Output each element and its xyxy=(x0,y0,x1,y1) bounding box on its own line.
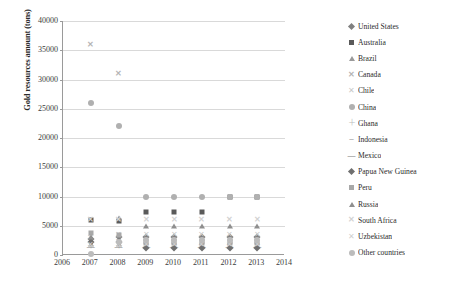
legend-marker-icon xyxy=(346,21,357,32)
plot-area: ✕✕✕✕✕✕✕✕✕✕✕✕✕✕＋＋＋＋＋＋＋–––––––———————✕✕✕✕✕… xyxy=(62,21,284,255)
legend-item[interactable]: ✕Uzbekistan xyxy=(346,228,452,244)
data-point xyxy=(88,251,94,257)
gridline xyxy=(63,167,285,168)
y-tick-label: 40000 xyxy=(0,17,58,25)
legend-marker-icon xyxy=(346,166,357,177)
y-tick-mark xyxy=(60,197,63,198)
legend-item-label: Other countries xyxy=(358,248,405,257)
y-tick-mark xyxy=(60,138,63,139)
data-point xyxy=(143,194,149,200)
data-point xyxy=(171,223,177,228)
legend-item[interactable]: –Indonesia xyxy=(346,131,452,147)
gridline xyxy=(63,138,285,139)
legend-item[interactable]: —Mexico xyxy=(346,148,452,164)
chart-legend: United StatesAustraliaBrazil✕Canada✕Chil… xyxy=(346,18,452,261)
data-point xyxy=(171,194,177,200)
legend-item[interactable]: ✕Canada xyxy=(346,67,452,83)
data-point xyxy=(171,237,177,243)
legend-marker-icon: – xyxy=(346,134,357,145)
legend-item-label: Indonesia xyxy=(358,135,388,144)
legend-item[interactable]: China xyxy=(346,99,452,115)
y-tick-label: 10000 xyxy=(0,193,58,201)
legend-marker-icon: ✕ xyxy=(346,215,357,226)
legend-item[interactable]: ＋Ghana xyxy=(346,115,452,131)
x-tick-label: 2014 xyxy=(267,258,301,268)
data-point: ✕ xyxy=(197,216,206,223)
data-point: ✕ xyxy=(253,216,262,223)
x-axis-tick-labels: 200620072008200920102011201220132014 xyxy=(0,258,300,272)
data-point: ✕ xyxy=(170,216,179,223)
data-point: ✕ xyxy=(114,216,123,223)
legend-marker-icon: ✕ xyxy=(346,69,357,80)
legend-item-label: Chile xyxy=(358,86,374,95)
data-point xyxy=(199,194,205,200)
legend-marker-icon xyxy=(346,247,357,258)
gridline xyxy=(63,80,285,81)
data-point: ✕ xyxy=(225,216,234,223)
legend-item-label: South Africa xyxy=(358,216,397,225)
y-tick-mark xyxy=(60,226,63,227)
data-point xyxy=(88,100,94,106)
y-tick-label: 20000 xyxy=(0,134,58,142)
data-point xyxy=(116,232,121,237)
legend-item-label: Peru xyxy=(358,183,372,192)
legend-item[interactable]: Russia xyxy=(346,196,452,212)
legend-marker-icon xyxy=(346,37,357,48)
data-point xyxy=(143,237,149,243)
data-point: ✕ xyxy=(142,216,151,223)
legend-item-label: Canada xyxy=(358,70,381,79)
legend-marker-icon: ✕ xyxy=(346,231,357,242)
legend-marker-icon xyxy=(346,53,357,64)
y-tick-mark xyxy=(60,21,63,22)
data-point: ✕ xyxy=(86,242,95,249)
legend-item-label: Mexico xyxy=(358,151,381,160)
legend-item-label: Russia xyxy=(358,200,378,209)
y-tick-label: 25000 xyxy=(0,105,58,113)
gridline xyxy=(63,50,285,51)
legend-marker-icon xyxy=(346,182,357,193)
data-point xyxy=(227,223,233,228)
y-axis-tick-labels: 0500010000150002000025000300003500040000 xyxy=(0,0,58,283)
legend-item-label: Uzbekistan xyxy=(358,232,392,241)
y-tick-label: 15000 xyxy=(0,163,58,171)
data-point: ✕ xyxy=(114,70,123,77)
data-point xyxy=(227,194,233,200)
legend-item[interactable]: Brazil xyxy=(346,50,452,66)
chart-root: Gold resources amount (tons) 05000100001… xyxy=(0,0,453,283)
legend-item[interactable]: Australia xyxy=(346,34,452,50)
legend-item-label: Australia xyxy=(358,38,386,47)
data-point xyxy=(116,123,122,129)
data-point: ✕ xyxy=(86,216,95,223)
data-point xyxy=(254,237,260,243)
legend-marker-icon xyxy=(346,102,357,113)
legend-item-label: Brazil xyxy=(358,54,377,63)
legend-item-label: United States xyxy=(358,22,399,31)
legend-item-label: China xyxy=(358,103,376,112)
data-point xyxy=(143,223,149,228)
legend-marker-icon xyxy=(346,199,357,210)
y-tick-mark xyxy=(60,255,63,256)
legend-item[interactable]: ✕South Africa xyxy=(346,212,452,228)
data-point xyxy=(199,237,205,243)
legend-item[interactable]: United States xyxy=(346,18,452,34)
data-point xyxy=(199,223,205,228)
legend-item[interactable]: Other countries xyxy=(346,245,452,261)
data-point xyxy=(254,223,260,228)
y-tick-label: 30000 xyxy=(0,76,58,84)
data-point xyxy=(254,194,260,200)
y-tick-mark xyxy=(60,167,63,168)
legend-marker-icon: ✕ xyxy=(346,85,357,96)
data-point xyxy=(227,237,233,243)
y-tick-mark xyxy=(60,80,63,81)
data-point: ✕ xyxy=(86,41,95,48)
legend-item-label: Ghana xyxy=(358,119,378,128)
legend-item[interactable]: Papua New Guinea xyxy=(346,164,452,180)
gridline xyxy=(63,21,285,22)
legend-item-label: Papua New Guinea xyxy=(358,167,417,176)
y-tick-label: 35000 xyxy=(0,46,58,54)
legend-item[interactable]: Peru xyxy=(346,180,452,196)
legend-item[interactable]: ✕Chile xyxy=(346,83,452,99)
legend-marker-icon: — xyxy=(346,150,357,161)
y-tick-mark xyxy=(60,109,63,110)
legend-marker-icon: ＋ xyxy=(346,118,357,129)
